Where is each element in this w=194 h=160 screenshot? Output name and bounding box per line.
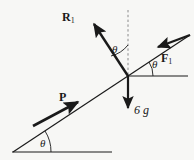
label-weight: 6 g: [134, 104, 149, 116]
label-friction-force-subscript: 1: [168, 57, 172, 66]
label-friction-force: F1: [161, 52, 172, 66]
label-angle-base: θ: [40, 138, 45, 149]
label-normal-reaction-symbol: R: [62, 10, 71, 24]
diagram-canvas: [0, 0, 194, 160]
label-applied-force: P: [59, 91, 66, 103]
angle-arc-base: [45, 131, 51, 152]
label-normal-reaction-subscript: 1: [71, 16, 75, 25]
label-angle-top: θ: [112, 44, 117, 55]
force-diagram-figure: R1 F1 P 6 g θ θ θ: [0, 0, 194, 160]
label-normal-reaction: R1: [62, 11, 75, 25]
label-angle-right: θ: [152, 59, 157, 70]
